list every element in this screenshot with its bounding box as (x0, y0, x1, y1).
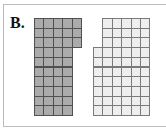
grid-cell (140, 105, 150, 116)
figure-label: B. (10, 14, 25, 32)
grid-cell (62, 105, 72, 116)
grid-cell (72, 37, 82, 48)
